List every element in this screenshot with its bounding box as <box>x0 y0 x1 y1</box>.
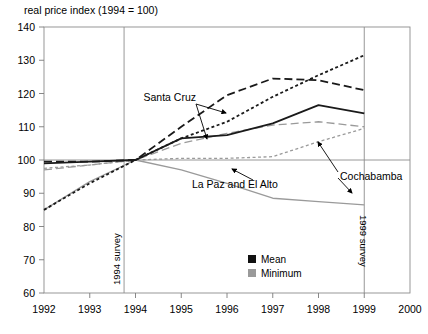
legend-swatch-minimum <box>248 269 256 277</box>
x-axis-tick-label: 1997 <box>261 303 285 315</box>
y-axis-tick-label: 60 <box>23 287 35 299</box>
x-axis-tick-label: 1996 <box>215 303 239 315</box>
x-axis-tick-label: 1992 <box>32 303 56 315</box>
annotation-label-la-paz-and-el-alto: La Paz and El Alto <box>192 178 278 190</box>
x-axis-tick-label: 2000 <box>398 303 422 315</box>
survey-line-label: 1999 survey <box>358 215 369 267</box>
series-line-santa-cruz-mean <box>44 79 364 162</box>
chart-figure: real price index (1994 = 100)60708090100… <box>0 0 428 334</box>
x-axis-tick-label: 1995 <box>170 303 194 315</box>
y-axis-tick-label: 70 <box>23 254 35 266</box>
y-axis-title: real price index (1994 = 100) <box>24 4 158 16</box>
x-axis-tick-label: 1998 <box>307 303 331 315</box>
x-axis-tick-label: 1999 <box>353 303 377 315</box>
annotation-label-cochabamba: Cochabamba <box>340 170 403 182</box>
y-axis-tick-label: 100 <box>17 154 35 166</box>
survey-line-label: 1994 survey <box>111 233 122 285</box>
y-axis-tick-label: 140 <box>17 21 35 33</box>
legend-swatch-mean <box>248 255 256 263</box>
legend-label-mean: Mean <box>261 254 286 265</box>
x-axis-tick-label: 1993 <box>78 303 102 315</box>
annotation-leader-santa-cruz-min <box>196 104 207 139</box>
legend-label-minimum: Minimum <box>261 268 302 279</box>
series-line-la-paz-and-el-alto-mean <box>44 105 364 163</box>
y-axis-tick-label: 80 <box>23 221 35 233</box>
y-axis-tick-label: 90 <box>23 187 35 199</box>
x-axis-tick-label: 1994 <box>124 303 148 315</box>
annotation-label-santa-cruz: Santa Cruz <box>143 91 196 103</box>
real-price-index-line-chart: real price index (1994 = 100)60708090100… <box>0 0 428 334</box>
y-axis-tick-label: 120 <box>17 88 35 100</box>
y-axis-tick-label: 130 <box>17 54 35 66</box>
y-axis-tick-label: 110 <box>18 121 35 133</box>
annotation-leader-cochabamba-up <box>318 142 338 172</box>
